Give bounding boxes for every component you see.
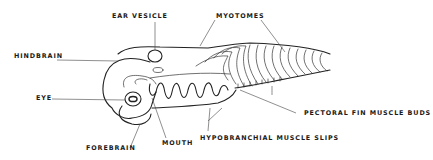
ventral-tail-outline [235, 70, 330, 88]
label-eye: EYE [36, 95, 52, 101]
myotome-chevrons [196, 45, 327, 86]
label-forebrain: FOREBRAIN [86, 145, 136, 151]
head-outline [103, 59, 156, 119]
leader-myotomes-1 [200, 20, 215, 46]
label-myotomes: MYOTOMES [216, 13, 265, 19]
leader-myotomes-2 [261, 20, 285, 52]
label-ear-vesicle: EAR VESICLE [112, 13, 168, 19]
leader-eye [52, 99, 125, 100]
pharyngeal-arches [149, 83, 228, 98]
label-hypobranchial-muscle-slips: HYPOBRANCHIAL MUSCLE SLIPS [200, 135, 339, 141]
label-mouth: MOUTH [162, 140, 193, 146]
embryo-diagram: EAR VESICLE MYOTOMES HINDBRAIN EYE PECTO… [0, 0, 433, 160]
label-hindbrain: HINDBRAIN [14, 53, 63, 59]
eye-shape [125, 92, 141, 106]
ear-vesicle-shape [148, 50, 162, 62]
label-pectoral-fin-muscle-buds: PECTORAL FIN MUSCLE BUDS [304, 110, 431, 116]
leader-mouth [152, 98, 166, 138]
leader-hindbrain [57, 60, 118, 61]
leader-pectoral-fin [240, 90, 296, 113]
